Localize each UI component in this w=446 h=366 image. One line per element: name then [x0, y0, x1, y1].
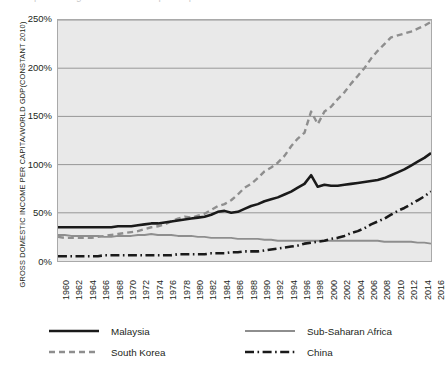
x-axis-tick-label: 1960	[61, 280, 71, 300]
chart-legend: MalaysiaSub-Saharan AfricaSouth KoreaChi…	[48, 325, 428, 365]
x-axis-tick-label: 2002	[342, 280, 352, 300]
legend-swatch-malaysia	[48, 325, 100, 337]
x-axis-tick-label: 2004	[356, 280, 366, 300]
x-axis-tick-label: 1966	[101, 280, 111, 300]
y-axis-tick-label: 50%	[6, 207, 52, 218]
legend-item[interactable]: Sub-Saharan Africa	[244, 325, 392, 337]
x-axis-tick-label: 1980	[195, 280, 205, 300]
x-axis-tick-label: 1996	[302, 280, 312, 300]
x-axis-tick-label: 1986	[235, 280, 245, 300]
y-axis-tick-label: 100%	[6, 159, 52, 170]
x-axis-tick-label: 1970	[128, 280, 138, 300]
x-axis-tick-label: 1984	[222, 280, 232, 300]
x-axis-tick-label: 1974	[155, 280, 165, 300]
x-axis-tick-label: 1988	[249, 280, 259, 300]
x-axis-tick-label: 1992	[275, 280, 285, 300]
x-axis-tick-label: 1976	[168, 280, 178, 300]
x-axis-tick-label: 2000	[329, 280, 339, 300]
legend-item[interactable]: China	[244, 346, 333, 358]
series-line-china	[58, 192, 431, 257]
x-axis-tick-label: 1964	[88, 280, 98, 300]
x-axis-tick-label: 1972	[141, 280, 151, 300]
x-axis-tick-label: 1990	[262, 280, 272, 300]
x-axis-tick-label: 1978	[182, 280, 192, 300]
x-axis-tick-label: 2006	[369, 280, 379, 300]
x-axis-tick-label: 2014	[423, 280, 433, 300]
y-axis-tick-label: 200%	[6, 62, 52, 73]
x-axis-tick-label: 2016	[436, 280, 446, 300]
clipped-caption: percentage of world GDP per capita	[0, 0, 442, 9]
x-axis-tick-label: 2012	[409, 280, 419, 300]
plot-area	[57, 19, 432, 262]
x-axis-tick-label: 1994	[289, 280, 299, 300]
x-axis-tick-label: 2010	[396, 280, 406, 300]
y-axis-title: GROSS DOMESTIC INCOME PER CAPITA/WORLD G…	[18, 15, 27, 295]
x-axis-tick-label: 2008	[382, 280, 392, 300]
legend-label: Malaysia	[111, 326, 150, 337]
x-axis-tick-label: 1982	[208, 280, 218, 300]
legend-label: Sub-Saharan Africa	[307, 326, 392, 337]
plot-svg	[58, 20, 431, 261]
legend-label: South Korea	[111, 347, 165, 358]
y-axis-tick-label: 0%	[6, 256, 52, 267]
legend-label: China	[307, 347, 333, 358]
y-axis-tick-label: 250%	[6, 13, 52, 24]
legend-swatch-china	[244, 346, 296, 358]
x-axis-tick-label: 1998	[315, 280, 325, 300]
x-axis-tick-labels: 1960196219641966196819701972197419761978…	[57, 264, 432, 308]
series-line-sub-saharan-africa	[58, 234, 431, 244]
clipped-caption-text: percentage of world GDP per capita	[34, 0, 206, 2]
legend-item[interactable]: Malaysia	[48, 325, 150, 337]
x-axis-tick-label: 1968	[115, 280, 125, 300]
legend-item[interactable]: South Korea	[48, 346, 165, 358]
series-line-south-korea	[58, 22, 431, 238]
legend-swatch-sub-saharan-africa	[244, 325, 296, 337]
x-axis-tick-label: 1962	[74, 280, 84, 300]
y-axis-tick-label: 150%	[6, 110, 52, 121]
legend-swatch-south-korea	[48, 346, 100, 358]
